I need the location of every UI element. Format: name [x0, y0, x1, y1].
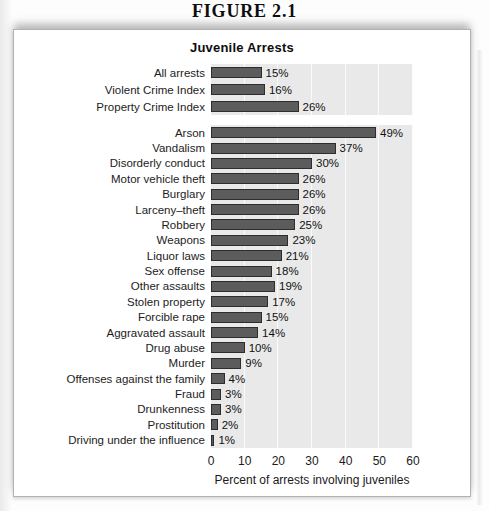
- value-label: 21%: [286, 250, 309, 262]
- category-label: Burglary: [14, 188, 211, 200]
- value-label: 16%: [269, 84, 292, 96]
- category-label: Drug abuse: [14, 342, 211, 354]
- bar-row: Other assaults19%: [14, 279, 470, 294]
- bar-row: Offenses against the family4%: [14, 371, 470, 386]
- bar: [211, 373, 225, 384]
- x-tick-label: 10: [238, 454, 251, 468]
- bar-row: Drunkenness3%: [14, 402, 470, 417]
- category-label: Property Crime Index: [14, 101, 211, 113]
- bar-row: Aggravated assault14%: [14, 325, 470, 340]
- bar-group-offenses: Arson49%Vandalism37%Disorderly conduct30…: [14, 125, 470, 448]
- scan-edge-left: [0, 0, 12, 511]
- category-label: Vandalism: [14, 142, 211, 154]
- value-label: 23%: [292, 234, 315, 246]
- category-label: Robbery: [14, 219, 211, 231]
- bar: [211, 358, 241, 369]
- bar: [211, 250, 282, 261]
- bar-cell: 2%: [211, 417, 413, 432]
- value-label: 3%: [225, 403, 242, 415]
- bar-row: Vandalism37%: [14, 140, 470, 155]
- category-label: Aggravated assault: [14, 327, 211, 339]
- value-label: 18%: [276, 265, 299, 277]
- x-tick-label: 60: [406, 454, 419, 468]
- bar: [211, 312, 262, 323]
- bar-row: Drug abuse10%: [14, 340, 470, 355]
- bar-cell: 4%: [211, 371, 413, 386]
- bar-cell: 1%: [211, 433, 413, 448]
- chart-title: Juvenile Arrests: [14, 40, 470, 55]
- bar: [211, 84, 265, 95]
- bar-cell: 14%: [211, 325, 413, 340]
- bar: [211, 158, 312, 169]
- value-label: 10%: [249, 342, 272, 354]
- bar-cell: 21%: [211, 248, 413, 263]
- category-label: Offenses against the family: [14, 373, 211, 385]
- bar: [211, 327, 258, 338]
- category-label: Larceny–theft: [14, 204, 211, 216]
- category-label: Fraud: [14, 388, 211, 400]
- bar-row: Property Crime Index26%: [14, 98, 470, 115]
- value-label: 19%: [279, 280, 302, 292]
- x-tick-label: 50: [373, 454, 386, 468]
- bar-chart: All arrests15%Violent Crime Index16%Prop…: [14, 64, 470, 498]
- category-label: Motor vehicle theft: [14, 173, 211, 185]
- bar: [211, 266, 272, 277]
- bar-cell: 26%: [211, 202, 413, 217]
- x-tick-label: 40: [339, 454, 352, 468]
- bar-row: Arson49%: [14, 125, 470, 140]
- bar: [211, 173, 299, 184]
- value-label: 14%: [262, 327, 285, 339]
- bar-row: Motor vehicle theft26%: [14, 171, 470, 186]
- category-label: Other assaults: [14, 280, 211, 292]
- category-label: Violent Crime Index: [14, 84, 211, 96]
- bar: [211, 204, 299, 215]
- category-label: Sex offense: [14, 265, 211, 277]
- value-label: 26%: [303, 173, 326, 185]
- category-label: Driving under the influence: [14, 434, 211, 446]
- bar: [211, 404, 221, 415]
- value-label: 9%: [245, 357, 262, 369]
- bar-cell: 9%: [211, 356, 413, 371]
- bar-row: Forcible rape15%: [14, 310, 470, 325]
- bar-row: Sex offense18%: [14, 263, 470, 278]
- category-label: Prostitution: [14, 419, 211, 431]
- bar-cell: 17%: [211, 294, 413, 309]
- bar-cell: 26%: [211, 98, 413, 115]
- x-axis: Percent of arrests involving juveniles 0…: [14, 448, 470, 498]
- value-label: 15%: [266, 311, 289, 323]
- bar-row: Stolen property17%: [14, 294, 470, 309]
- bar: [211, 419, 218, 430]
- bar: [211, 127, 376, 138]
- bar-row: Robbery25%: [14, 217, 470, 232]
- category-label: Weapons: [14, 234, 211, 246]
- bar: [211, 219, 295, 230]
- bar-cell: 3%: [211, 402, 413, 417]
- category-label: Forcible rape: [14, 311, 211, 323]
- value-label: 49%: [380, 127, 403, 139]
- scanned-figure-page: FIGURE 2.1 Juvenile Arrests All arrests1…: [0, 0, 489, 511]
- bar-cell: 19%: [211, 279, 413, 294]
- category-label: Murder: [14, 357, 211, 369]
- x-axis-title: Percent of arrests involving juveniles: [215, 473, 410, 487]
- value-label: 37%: [340, 142, 363, 154]
- category-label: Arson: [14, 127, 211, 139]
- value-label: 4%: [229, 373, 246, 385]
- value-label: 26%: [303, 204, 326, 216]
- bar-cell: 23%: [211, 233, 413, 248]
- bar-row: Fraud3%: [14, 386, 470, 401]
- x-tick-label: 0: [208, 454, 215, 468]
- bar-row: Violent Crime Index16%: [14, 81, 470, 98]
- value-label: 2%: [222, 419, 239, 431]
- scan-edge-right: [476, 50, 483, 505]
- bar-row: Murder9%: [14, 356, 470, 371]
- bar: [211, 189, 299, 200]
- bar: [211, 389, 221, 400]
- category-label: Liquor laws: [14, 250, 211, 262]
- bar-row: Burglary26%: [14, 187, 470, 202]
- category-label: Stolen property: [14, 296, 211, 308]
- bar-row: Larceny–theft26%: [14, 202, 470, 217]
- bar: [211, 342, 245, 353]
- bar-cell: 15%: [211, 310, 413, 325]
- bar-cell: 10%: [211, 340, 413, 355]
- bar-row: All arrests15%: [14, 64, 470, 81]
